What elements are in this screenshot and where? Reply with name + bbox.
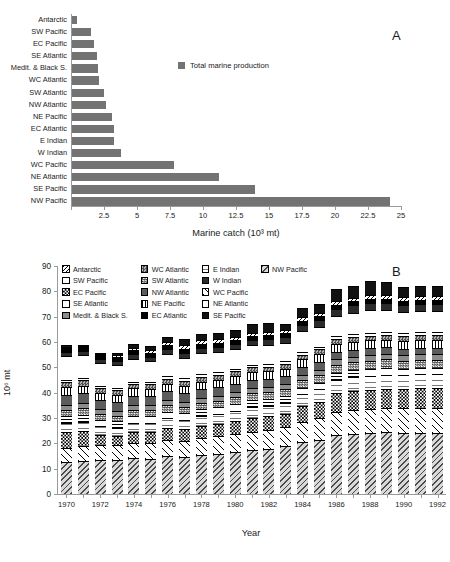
panel-a-bar xyxy=(72,28,91,36)
panel-b-legend-item: SE Pacific xyxy=(202,310,248,320)
panel-a-bar xyxy=(72,40,94,48)
panel-b-y-tick-label: 50 xyxy=(25,363,51,372)
panel-b-bar-segment xyxy=(112,445,123,459)
panel-b-bar-segment xyxy=(128,432,139,443)
panel-b-bar-segment xyxy=(314,402,325,418)
panel-b-bar-segment xyxy=(179,386,190,394)
panel-b-bar-segment xyxy=(432,433,443,494)
panel-b-legend-item: E Indian xyxy=(202,264,248,274)
panel-b-bar-segment xyxy=(297,367,308,374)
panel-b-bar-segment xyxy=(415,340,426,348)
panel-b-bar-segment xyxy=(162,391,173,400)
panel-b-bar-segment xyxy=(314,383,325,390)
panel-b-stacked-bar xyxy=(162,337,173,494)
panel-b-bar-segment xyxy=(348,350,359,357)
panel-b-bar-segment xyxy=(432,388,443,408)
panel-b-y-tick-label: 40 xyxy=(25,388,51,397)
panel-b-legend-column: AntarcticSW PacificEC PacificSE Atlantic… xyxy=(62,264,128,320)
panel-b-bar-segment xyxy=(213,454,224,494)
legend-label: WC Pacific xyxy=(213,288,248,297)
panel-b-x-tick xyxy=(438,494,439,498)
panel-b-bar-segment xyxy=(128,458,139,494)
legend-swatch-wc-pacific xyxy=(202,288,210,296)
panel-b-bar-segment xyxy=(128,443,139,458)
panel-b-bar-segment xyxy=(263,406,274,417)
panel-a-x-tick xyxy=(269,206,270,210)
panel-b-x-tick xyxy=(151,494,152,498)
legend-label: SW Pacific xyxy=(73,276,108,285)
panel-b-bar-segment xyxy=(314,362,325,369)
panel-b-bar-segment xyxy=(263,379,274,387)
legend-label: WC Atlantic xyxy=(152,265,189,274)
panel-b-stacked-bar xyxy=(331,289,342,494)
panel-b-bar-segment xyxy=(128,396,139,405)
panel-b-stacked-bar xyxy=(398,287,409,494)
panel-a-category-label: NE Atlantic xyxy=(2,171,70,183)
panel-b-bar-segment xyxy=(112,402,123,411)
panel-b-legend-item: SW Atlantic xyxy=(141,276,189,286)
panel-b-bar-segment xyxy=(162,428,173,440)
panel-b-bar-segment xyxy=(196,438,207,455)
panel-b-bar-segment xyxy=(247,393,258,400)
panel-a-category-label: NW Atlantic xyxy=(2,99,70,111)
panel-a-category-label: Medit. & Black S. xyxy=(2,62,70,74)
panel-b-bar-segment xyxy=(179,393,190,401)
panel-b-bar-segment xyxy=(365,310,376,333)
panel-a-category-label: EC Atlantic xyxy=(2,123,70,135)
panel-b-bar-segment xyxy=(179,441,190,458)
figure-caption-sliver xyxy=(26,556,426,562)
panel-b-bar-segment xyxy=(61,416,72,423)
panel-b-bar-segment xyxy=(280,396,291,403)
panel-b-bar-segment xyxy=(78,393,89,403)
panel-a-bar-row xyxy=(72,26,402,38)
panel-b-bar-segment xyxy=(263,399,274,406)
panel-b-x-tick xyxy=(134,494,135,498)
panel-b-bar-segment xyxy=(179,429,190,440)
panel-b-bar-segment xyxy=(196,382,207,390)
panel-b-bar-segment xyxy=(230,411,241,421)
panel-b-bar-segment xyxy=(348,313,359,334)
panel-b-bar-segment xyxy=(263,449,274,494)
panel-b-bar-segment xyxy=(381,340,392,347)
panel-b-stacked-bar xyxy=(348,286,359,494)
panel-b-bar-segment xyxy=(128,359,139,382)
legend-label: EC Atlantic xyxy=(152,311,187,320)
panel-b-legend-item: Medit. & Black S. xyxy=(62,310,128,320)
panel-b-x-tick xyxy=(269,494,270,498)
panel-b-bar-segment xyxy=(280,414,291,427)
panel-b-bar-segment xyxy=(331,373,342,380)
panel-b-bar-segment xyxy=(280,403,291,414)
panel-b-bar-segment xyxy=(112,428,123,437)
panel-b-bar-segment xyxy=(112,460,123,494)
panel-a-category-label: W Indian xyxy=(2,147,70,159)
panel-b-legend-item: NE Atlantic xyxy=(202,299,248,309)
panel-a-x-tick xyxy=(368,206,369,210)
panel-b-bar-segment xyxy=(415,360,426,368)
panel-a-x-tick xyxy=(104,206,105,210)
panel-a-category-label: WC Atlantic xyxy=(2,74,70,86)
panel-b-legend-column: NW Pacific xyxy=(261,264,307,320)
panel-a-x-tick-label: 5 xyxy=(135,211,139,220)
panel-b-bar-segment xyxy=(432,311,443,332)
panel-b-bar-segment xyxy=(61,448,72,462)
panel-a-bar-row xyxy=(72,135,402,147)
panel-b-bar-segment xyxy=(145,416,156,423)
panel-b-x-tick-label: 1972 xyxy=(92,500,109,509)
panel-b-bar-segment xyxy=(331,344,342,352)
panel-b-bar-segment xyxy=(432,408,443,433)
panel-b-bar-segment xyxy=(230,421,241,434)
panel-a-bar xyxy=(72,185,255,193)
panel-a-category-label: WC Pacific xyxy=(2,159,70,171)
legend-swatch-ne-pacific xyxy=(141,300,149,308)
panel-b-bar-segment xyxy=(112,436,123,445)
panel-a-bar xyxy=(72,101,106,109)
panel-b-stacked-bar xyxy=(145,346,156,494)
panel-b-bar-segment xyxy=(331,393,342,412)
panel-b-bar-segment xyxy=(314,354,325,362)
panel-b-y-tick-label: 60 xyxy=(25,338,51,347)
panel-b-x-tick xyxy=(201,494,202,498)
panel-b-bar-segment xyxy=(263,323,274,332)
panel-b-bar-segment xyxy=(381,359,392,367)
panel-a-category-labels: AntarcticSW PacificEC PacificSE Atlantic… xyxy=(2,14,70,206)
panel-b-bar-segment xyxy=(331,289,342,301)
